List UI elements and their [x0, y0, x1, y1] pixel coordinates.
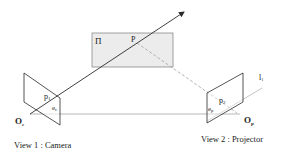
projector-center-label: Op	[244, 115, 254, 126]
projector-image-plane	[207, 73, 243, 123]
epipolar-diagram: Π P p1 ec Oc p2 ep Op l1	[0, 0, 283, 153]
plane-label: Π	[95, 36, 102, 46]
epipolar-line-label: l1	[259, 73, 263, 82]
camera-caption: View 1 : Camera	[14, 140, 71, 150]
projector-caption: View 2 : Projector	[201, 134, 263, 144]
camera-image-plane	[24, 73, 60, 125]
camera-center-label: Oc	[15, 116, 25, 127]
point-p-label: P	[131, 35, 136, 44]
